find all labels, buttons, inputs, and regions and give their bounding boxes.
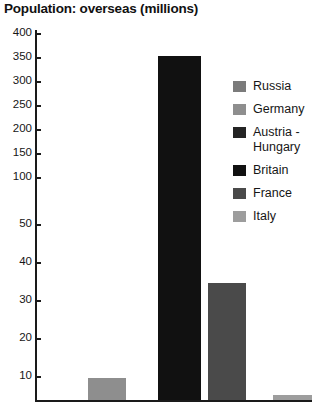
- legend-item-label: Russia: [253, 79, 291, 94]
- y-axis-tick: [35, 33, 41, 35]
- chart-title: Population: overseas (millions): [4, 1, 198, 16]
- y-axis-tick-label: 400: [13, 27, 32, 39]
- legend-item-label: Britain: [253, 163, 288, 178]
- legend-item-italy: Italy: [233, 209, 313, 224]
- legend-item-britain: Britain: [233, 163, 313, 178]
- legend-item-russia: Russia: [233, 79, 313, 94]
- y-axis-tick-label: 100: [13, 171, 32, 183]
- bar-germany: [88, 378, 126, 400]
- y-axis-tick-label: 350: [13, 51, 32, 63]
- y-axis-tick-label: 20: [19, 332, 32, 344]
- y-axis-tick: [35, 57, 41, 59]
- y-axis-tick-label: 40: [19, 256, 32, 268]
- legend-swatch-icon: [233, 104, 246, 115]
- legend-item-france: France: [233, 186, 313, 201]
- x-axis-line: [35, 400, 312, 402]
- legend-item-label: Germany: [253, 102, 304, 117]
- y-axis-tick-label: 250: [13, 99, 32, 111]
- legend-item-label: Italy: [253, 209, 276, 224]
- y-axis-tick: [35, 224, 41, 226]
- y-axis-tick-label: 30: [19, 294, 32, 306]
- y-axis-tick: [35, 153, 41, 155]
- legend-swatch-icon: [233, 211, 246, 222]
- legend-swatch-icon: [233, 165, 246, 176]
- y-axis-tick-label: 50: [19, 218, 32, 230]
- y-axis-tick: [35, 262, 41, 264]
- y-axis-tick: [35, 338, 41, 340]
- y-axis-tick: [35, 81, 41, 83]
- y-axis-tick-label: 300: [13, 75, 32, 87]
- bar-france: [208, 283, 246, 400]
- y-axis-tick: [35, 177, 41, 179]
- y-axis-tick: [35, 376, 41, 378]
- legend-swatch-icon: [233, 188, 246, 199]
- legend-item-label: Austria - Hungary: [253, 125, 300, 155]
- bar-italy: [273, 395, 312, 400]
- bar-chart: Population: overseas (millions) RussiaGe…: [0, 0, 314, 409]
- y-axis-tick-label: 200: [13, 123, 32, 135]
- legend-item-label: France: [253, 186, 292, 201]
- y-axis-tick: [35, 129, 41, 131]
- legend-swatch-icon: [233, 81, 246, 92]
- bar-britain: [158, 56, 201, 400]
- chart-legend: RussiaGermanyAustria - HungaryBritainFra…: [233, 79, 313, 232]
- legend-item-germany: Germany: [233, 102, 313, 117]
- y-axis-tick-label: 150: [13, 147, 32, 159]
- y-axis-tick: [35, 300, 41, 302]
- legend-item-austria: Austria - Hungary: [233, 125, 313, 155]
- y-axis-tick-label: 10: [19, 370, 32, 382]
- legend-swatch-icon: [233, 127, 246, 138]
- y-axis-tick: [35, 105, 41, 107]
